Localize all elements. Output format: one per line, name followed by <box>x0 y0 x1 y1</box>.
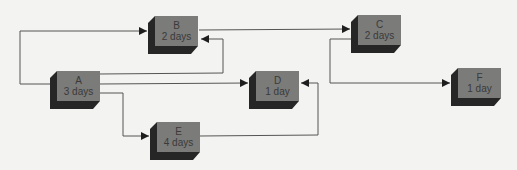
node-label: C <box>376 19 383 30</box>
node-face: B 2 days <box>155 16 198 46</box>
node-label: D <box>274 75 281 86</box>
node-face: E 4 days <box>157 122 200 152</box>
node-label: A <box>75 75 82 86</box>
edge-a-to-d <box>99 83 248 84</box>
node-label: B <box>173 20 180 31</box>
node-duration: 1 day <box>265 86 289 97</box>
node-duration: 2 days <box>162 31 191 42</box>
edge-a-to-e <box>99 93 149 136</box>
node-duration: 3 days <box>64 86 93 97</box>
node-c: C 2 days <box>358 15 401 45</box>
node-face: C 2 days <box>358 15 401 45</box>
node-label: F <box>476 72 482 83</box>
node-label: E <box>175 126 182 137</box>
node-face: A 3 days <box>57 71 100 101</box>
node-b: B 2 days <box>155 16 198 46</box>
edge-b-to-c <box>199 29 350 30</box>
node-a: A 3 days <box>57 71 100 101</box>
node-d: D 1 day <box>256 71 299 101</box>
node-duration: 4 days <box>164 137 193 148</box>
node-face: D 1 day <box>256 71 299 101</box>
node-duration: 1 day <box>467 83 491 94</box>
node-duration: 2 days <box>365 30 394 41</box>
node-f: F 1 day <box>458 68 501 98</box>
node-face: F 1 day <box>458 68 501 98</box>
node-e: E 4 days <box>157 122 200 152</box>
